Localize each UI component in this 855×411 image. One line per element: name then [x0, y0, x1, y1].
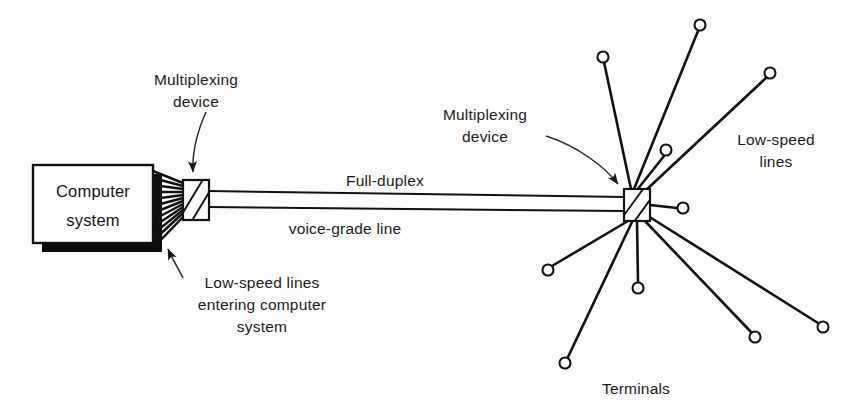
- terminal-node[interactable]: [750, 332, 761, 343]
- low-speed-entering-line3: system: [237, 318, 287, 335]
- computer-system-label-line1: Computer: [56, 182, 130, 200]
- terminal-node[interactable]: [678, 203, 689, 214]
- terminal-node[interactable]: [560, 358, 571, 369]
- computer-system-box: [33, 165, 153, 243]
- multiplexing-device-right[interactable]: [622, 185, 655, 226]
- label-full-duplex: Full-duplex: [346, 172, 424, 189]
- mux-left-label-line1: Multiplexing: [154, 71, 238, 88]
- computer-system-node[interactable]: Computer system: [33, 165, 162, 252]
- terminal-node[interactable]: [598, 52, 609, 63]
- low-speed-entering-line1: Low-speed lines: [204, 274, 319, 291]
- mux-right-label-line2: device: [462, 128, 508, 145]
- terminal-node[interactable]: [818, 322, 829, 333]
- mux-right-label-line1: Multiplexing: [443, 106, 527, 123]
- label-voice-grade-line: voice-grade line: [289, 220, 402, 237]
- low-speed-lines-right-line1: Low-speed: [737, 131, 815, 148]
- terminal-node[interactable]: [543, 265, 554, 276]
- label-terminals: Terminals: [602, 380, 670, 397]
- terminal-node[interactable]: [695, 20, 706, 31]
- terminal-node[interactable]: [661, 145, 672, 156]
- low-speed-entering-line2: entering computer: [198, 296, 326, 313]
- network-diagram: Computer system: [0, 0, 855, 411]
- terminal-node[interactable]: [633, 283, 644, 294]
- multiplexing-device-left[interactable]: [181, 176, 214, 224]
- diagram-canvas: Computer system: [0, 0, 855, 411]
- terminal-node[interactable]: [765, 68, 776, 79]
- low-speed-lines-right-line2: lines: [760, 153, 793, 170]
- mux-left-label-line2: device: [173, 93, 219, 110]
- computer-system-label-line2: system: [66, 211, 119, 229]
